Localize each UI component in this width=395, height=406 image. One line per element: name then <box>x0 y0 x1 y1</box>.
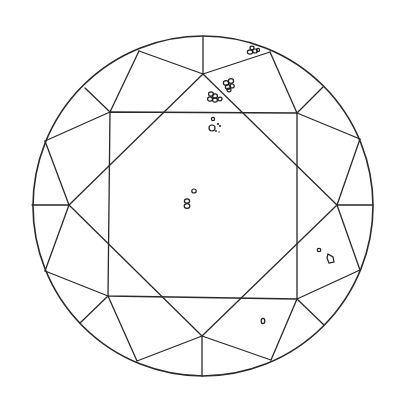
girdle-outline <box>33 36 373 376</box>
inclusion-cluster-star-upper <box>223 79 234 92</box>
diamond-plot-diagram <box>0 0 395 406</box>
inclusion-pair-right <box>317 248 334 263</box>
inclusions <box>184 46 334 323</box>
bezel-facets <box>32 37 373 376</box>
inclusion-cluster-top-girdle <box>247 46 259 54</box>
inclusion-cluster-star-lower <box>208 92 222 102</box>
inclusion-single-lower-right <box>261 318 265 323</box>
inclusion-cluster-table-top <box>209 117 221 132</box>
inclusion-pair-center <box>184 189 196 208</box>
